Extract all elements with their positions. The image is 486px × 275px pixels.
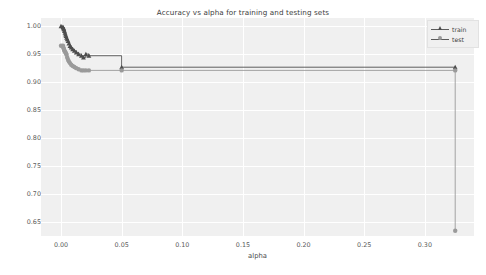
legend-swatch-test — [431, 35, 449, 43]
x-tick-label: 0.25 — [344, 241, 384, 249]
legend-label-train: train — [452, 26, 466, 33]
data-point-test — [87, 68, 91, 72]
plot-area — [41, 18, 474, 236]
legend-label-test: test — [452, 36, 464, 43]
data-point-test — [453, 68, 457, 72]
y-tick-label: 0.80 — [7, 134, 41, 142]
y-tick-label: 0.95 — [7, 50, 41, 58]
triangle-marker-icon — [438, 26, 442, 30]
legend-entry-test[interactable]: test — [431, 34, 475, 44]
legend-entry-train[interactable]: train — [431, 24, 475, 34]
y-tick-label: 0.75 — [7, 162, 41, 170]
y-tick-label: 1.00 — [7, 22, 41, 30]
x-axis-label: alpha — [41, 252, 474, 260]
x-tick-label: 0.30 — [405, 241, 445, 249]
x-tick-label: 0.05 — [102, 241, 142, 249]
legend-swatch-train — [431, 25, 449, 33]
circle-marker-icon — [438, 36, 442, 40]
x-tick-label: 0.20 — [284, 241, 324, 249]
chart-legend[interactable]: train test — [427, 20, 479, 48]
matplotlib-figure: Accuracy vs alpha for training and testi… — [0, 0, 486, 275]
chart-title: Accuracy vs alpha for training and testi… — [0, 8, 486, 17]
y-tick-label: 0.90 — [7, 78, 41, 86]
x-tick-label: 0.15 — [223, 241, 263, 249]
x-tick-label: 0.00 — [41, 241, 81, 249]
y-tick-label: 0.65 — [7, 218, 41, 226]
y-tick-label: 0.70 — [7, 190, 41, 198]
series-line-test — [61, 46, 455, 231]
data-point-test — [119, 68, 123, 72]
data-point-test — [453, 228, 457, 232]
x-tick-label: 0.10 — [162, 241, 202, 249]
series-svg — [41, 18, 474, 236]
series-line-train — [61, 26, 455, 67]
y-tick-label: 0.85 — [7, 106, 41, 114]
data-series-layer — [41, 18, 474, 236]
